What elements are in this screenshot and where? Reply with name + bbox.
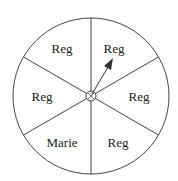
sector-label: Reg bbox=[52, 41, 73, 56]
sector-label: Reg bbox=[32, 89, 53, 104]
sector-label: Marie bbox=[46, 135, 77, 150]
spinner-diagram: Reg Reg Reg Marie Reg Reg bbox=[0, 0, 178, 181]
sector-label: Reg bbox=[108, 135, 129, 150]
sector-label: Reg bbox=[129, 89, 150, 104]
sector-label: Reg bbox=[104, 41, 125, 56]
